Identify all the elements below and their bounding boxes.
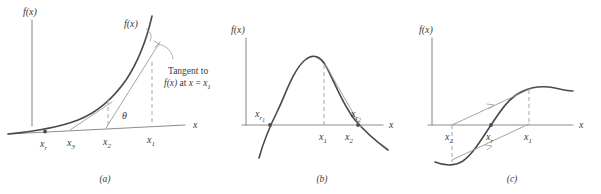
- panel-b-tick-x1: x1: [318, 131, 327, 145]
- panel-a-annotation-leader: [158, 44, 173, 59]
- panel-b: f(x) x xr1 xr2 x1 x2 (b): [215, 0, 405, 194]
- panel-c-tick-x1-sub: 1: [528, 137, 532, 145]
- panel-a-root-dot: [43, 130, 47, 134]
- panel-a-curve-label: f(x): [124, 18, 139, 30]
- panel-a-annotation-arrow: [154, 41, 159, 47]
- panel-a-tick-x3-sub: 3: [70, 143, 75, 151]
- panel-c-root-dot: [489, 123, 493, 127]
- panel-c-curve: [435, 87, 573, 165]
- figure-container: f(x) Tangent to f(x) at x = x1 θ x f(x) …: [0, 0, 601, 194]
- panel-a-annotation-x1-sub: 1: [207, 83, 211, 91]
- panel-b-root-1-subsub: 1: [262, 117, 265, 123]
- panel-c-caption: (c): [507, 174, 518, 185]
- panel-a: f(x) Tangent to f(x) at x = x1 θ x f(x) …: [0, 0, 215, 194]
- panel-a-annotation-at: at: [177, 78, 189, 88]
- panel-c: f(x) x x2 xr x1 (c): [405, 0, 601, 194]
- panel-c-tick-x1: x1: [523, 131, 532, 145]
- panel-a-tick-xr-sub: r: [44, 144, 47, 152]
- panel-b-caption: (b): [316, 174, 327, 185]
- panel-a-annotation-line2: f(x) at x = x1: [164, 78, 211, 91]
- panel-a-tick-x1: x1: [146, 134, 155, 148]
- panel-a-caption: (a): [99, 174, 110, 185]
- panel-b-root-dot-2: [356, 123, 360, 127]
- panel-a-tick-x1-sub: 1: [151, 140, 155, 148]
- panel-a-tangent-at-x2: [70, 102, 112, 130]
- panel-b-root-label-2: xr2: [350, 108, 361, 123]
- panel-a-x-axis-label: x: [192, 119, 198, 130]
- panel-b-root-label-1: xr1: [254, 108, 265, 123]
- panel-a-curve: [8, 16, 152, 134]
- panel-a-tick-x2-sub: 2: [107, 142, 111, 150]
- panel-c-x-axis-label: x: [578, 119, 584, 130]
- panel-a-tick-x2: x2: [102, 136, 111, 150]
- panel-b-tick-x2-sub: 2: [349, 137, 353, 145]
- panel-a-annotation-eq: =: [193, 78, 203, 88]
- panel-a-tick-x3: x3: [66, 137, 75, 151]
- panel-b-tick-x2: x2: [344, 131, 353, 145]
- panel-c-tick-xr-sub: r: [490, 137, 493, 145]
- panel-b-tick-x1-sub: 1: [323, 137, 327, 145]
- panel-c-y-axis-label: f(x): [419, 24, 434, 36]
- panel-b-y-axis-label: f(x): [231, 24, 246, 36]
- panel-c-tick-x2-sub: 2: [449, 137, 453, 145]
- panel-c-arrow-lower: [485, 145, 492, 150]
- panel-b-x-axis-label: x: [388, 119, 394, 130]
- panel-a-annotation-fx: f(x): [164, 78, 177, 89]
- panel-a-tick-xr: xr: [39, 138, 47, 152]
- panel-a-y-axis-label: f(x): [23, 6, 38, 18]
- panel-a-theta-label: θ: [122, 110, 127, 121]
- panel-b-root-dot-1: [268, 123, 272, 127]
- panel-a-x-axis: [8, 125, 185, 134]
- panel-a-annotation-line1: Tangent to: [168, 66, 208, 76]
- panel-b-root-2-subsub: 2: [358, 117, 361, 123]
